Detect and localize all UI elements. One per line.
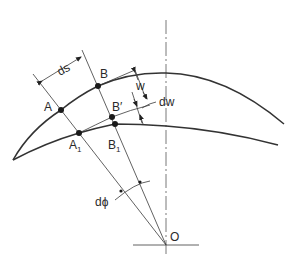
radial-line-b: [82, 50, 166, 245]
dw-arrow-top: [134, 99, 137, 106]
label-b1: B1: [108, 138, 121, 154]
point-a: [58, 107, 64, 113]
point-a1: [76, 130, 82, 136]
label-ds: ds: [54, 60, 72, 78]
label-o: O: [170, 230, 179, 244]
label-dw: dw: [159, 95, 175, 109]
label-dphi: dϕ: [95, 195, 109, 209]
inner-arc: [13, 124, 278, 160]
outer-arc: [13, 73, 284, 160]
diagram-canvas: A A1 B B′ B1 ds w dw dϕ O: [0, 0, 294, 264]
dphi-tick-b: [138, 180, 141, 183]
label-b-prime: B′: [112, 100, 123, 114]
label-w: w: [135, 79, 145, 93]
point-b: [95, 83, 101, 89]
radial-line-a: [33, 74, 166, 245]
w-arrow-bottom: [143, 92, 147, 99]
point-b-prime: [109, 114, 115, 120]
point-b1: [112, 121, 118, 127]
label-a: A: [44, 100, 52, 114]
label-a1: A1: [69, 138, 82, 154]
curvature-diagram: A A1 B B′ B1 ds w dw dϕ O: [0, 0, 294, 264]
dphi-tick-a: [119, 189, 122, 192]
label-b: B: [100, 67, 108, 81]
